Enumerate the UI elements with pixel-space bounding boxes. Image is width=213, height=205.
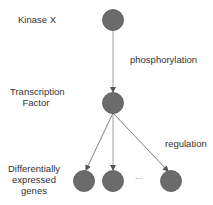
label-tf-line1: Transcription (10, 86, 62, 97)
label-genes-line3: genes (8, 185, 60, 196)
label-genes-line2: expressed (8, 174, 60, 185)
label-genes: Differentially expressed genes (8, 163, 60, 196)
label-phosphorylation: phosphorylation (130, 54, 197, 65)
label-transcription-factor: Transcription Factor (10, 86, 62, 108)
node-gene-2 (103, 171, 124, 192)
edge-regulation-3 (113, 113, 168, 171)
label-genes-line1: Differentially (8, 163, 60, 174)
label-kinase: Kinase X (18, 14, 56, 25)
node-gene-n (161, 171, 182, 192)
node-transcription-factor (103, 93, 124, 114)
node-kinase (103, 10, 124, 31)
node-gene-1 (74, 171, 95, 192)
ellipsis: ... (135, 170, 143, 181)
edge-regulation-1 (86, 113, 113, 170)
label-regulation: regulation (165, 138, 207, 149)
label-tf-line2: Factor (10, 97, 62, 108)
